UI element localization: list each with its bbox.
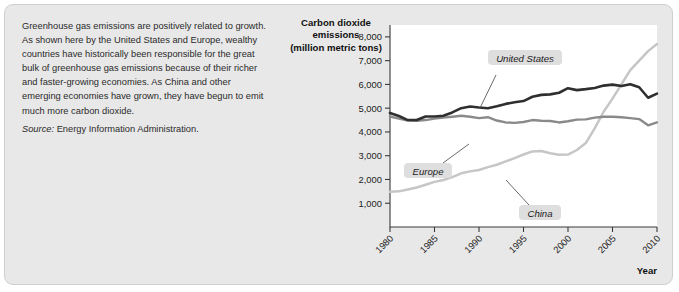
y-tick-label: 6,000 xyxy=(359,79,382,90)
y-tick-label: 3,000 xyxy=(359,150,382,161)
x-tick-label: 1990 xyxy=(462,233,485,256)
series-label-europe: Europe xyxy=(413,166,444,177)
x-tick-label: 2005 xyxy=(595,233,618,256)
y-tick-label: 8,000 xyxy=(359,31,382,42)
source-line: Source: Energy Information Administratio… xyxy=(22,122,270,136)
source-label: Source: xyxy=(22,124,54,134)
caption-block: Greenhouse gas emissions are positively … xyxy=(22,19,270,136)
x-axis-label: Year xyxy=(637,265,658,276)
x-tick-label: 2000 xyxy=(551,233,574,256)
y-tick-label: 5,000 xyxy=(359,103,382,114)
line-chart: 1,0002,0003,0004,0005,0006,0007,0008,000… xyxy=(277,13,669,279)
y-tick-label: 7,000 xyxy=(359,55,382,66)
y-tick-label: 2,000 xyxy=(359,174,382,185)
x-tick-label: 1980 xyxy=(373,233,396,256)
series-label-china: China xyxy=(527,208,552,219)
x-tick-label: 1995 xyxy=(506,233,529,256)
y-tick-label: 4,000 xyxy=(359,126,382,137)
source-text: Energy Information Administration. xyxy=(57,124,199,134)
series-label-united-states: United States xyxy=(496,53,554,64)
x-tick-label: 1985 xyxy=(417,233,440,256)
chart-container: Carbon dioxide emissions (million metric… xyxy=(277,13,669,279)
caption-text: Greenhouse gas emissions are positively … xyxy=(22,19,270,118)
y-tick-label: 1,000 xyxy=(359,198,382,209)
figure-card: Greenhouse gas emissions are positively … xyxy=(4,4,673,285)
x-tick-label: 2010 xyxy=(640,233,663,256)
